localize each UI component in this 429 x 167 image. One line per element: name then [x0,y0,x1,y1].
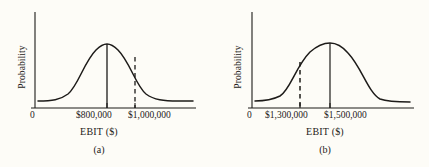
x-tick-label-1300000: $1,300,000 [265,110,308,120]
x-axis-label-a: EBIT ($) [0,126,206,137]
x-tick-labels-b: 0 $1,300,000 $1,500,000 [214,110,428,124]
plot-area-a [0,0,214,167]
x-tick-label-1000000: $1,000,000 [128,110,171,120]
bell-curve-b [255,43,410,102]
panel-a: Probability 0 $800,000 $1,000,000 EBIT (… [0,0,214,167]
figure-ebit-probability-distributions: Probability 0 $800,000 $1,000,000 EBIT (… [0,0,429,167]
y-axis-label-a: Probability [17,29,27,105]
plot-area-b [214,0,428,167]
x-tick-label-800000: $800,000 [76,110,112,120]
bell-curve-a [38,44,193,101]
x-tick-label-origin-b: 0 [247,110,252,120]
x-tick-labels-a: 0 $800,000 $1,000,000 [0,110,214,124]
x-tick-label-1500000: $1,500,000 [324,110,367,120]
x-tick-label-origin-a: 0 [30,110,35,120]
panel-caption-a: (a) [0,144,206,155]
x-axis-label-b: EBIT ($) [218,126,429,137]
panel-b: Probability 0 $1,300,000 $1,500,000 EBIT… [214,0,428,167]
panel-caption-b: (b) [218,144,429,155]
y-axis-label-b: Probability [233,29,243,105]
